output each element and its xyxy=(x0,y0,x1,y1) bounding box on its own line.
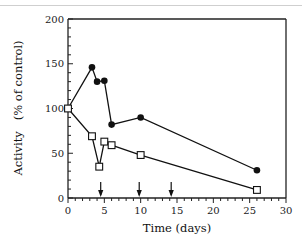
y-tick-label: 150 xyxy=(45,58,64,69)
series-filled-circle xyxy=(65,64,261,174)
x-tick-label: 30 xyxy=(280,205,293,216)
series-line xyxy=(68,109,257,190)
data-point-square xyxy=(65,105,72,112)
data-point-square xyxy=(254,187,261,194)
data-point-circle xyxy=(254,167,261,174)
y-tick-label: 100 xyxy=(45,103,64,114)
data-point-square xyxy=(89,133,96,140)
arrow-down-icon xyxy=(169,190,174,197)
x-tick-label: 20 xyxy=(207,205,220,216)
data-point-circle xyxy=(94,78,101,85)
x-tick-label: 5 xyxy=(101,205,107,216)
arrow-down-icon xyxy=(98,190,103,197)
data-point-square xyxy=(101,138,108,145)
data-point-circle xyxy=(108,121,115,128)
y-axis-title: Activity (% of control) xyxy=(11,40,25,176)
y-tick-label: 50 xyxy=(51,148,64,159)
data-series xyxy=(65,64,261,193)
x-axis-ticks: 051015202530 xyxy=(65,198,293,216)
data-point-square xyxy=(96,163,103,170)
data-point-square xyxy=(137,152,144,159)
data-point-circle xyxy=(101,77,108,84)
line-chart: 050100150200 051015202530 Time (days) Ac… xyxy=(0,0,302,244)
x-tick-label: 15 xyxy=(171,205,184,216)
series-open-square xyxy=(65,105,261,193)
data-point-circle xyxy=(89,64,96,71)
plot-axes xyxy=(68,19,286,198)
y-tick-label: 0 xyxy=(58,193,64,204)
annotation-arrows xyxy=(98,182,174,197)
arrow-down-icon xyxy=(137,190,142,197)
y-tick-label: 200 xyxy=(45,14,64,25)
x-tick-label: 0 xyxy=(65,205,71,216)
x-axis-title: Time (days) xyxy=(143,221,211,235)
x-tick-label: 25 xyxy=(243,205,256,216)
x-tick-label: 10 xyxy=(134,205,147,216)
data-point-square xyxy=(108,142,115,149)
data-point-circle xyxy=(137,114,144,121)
